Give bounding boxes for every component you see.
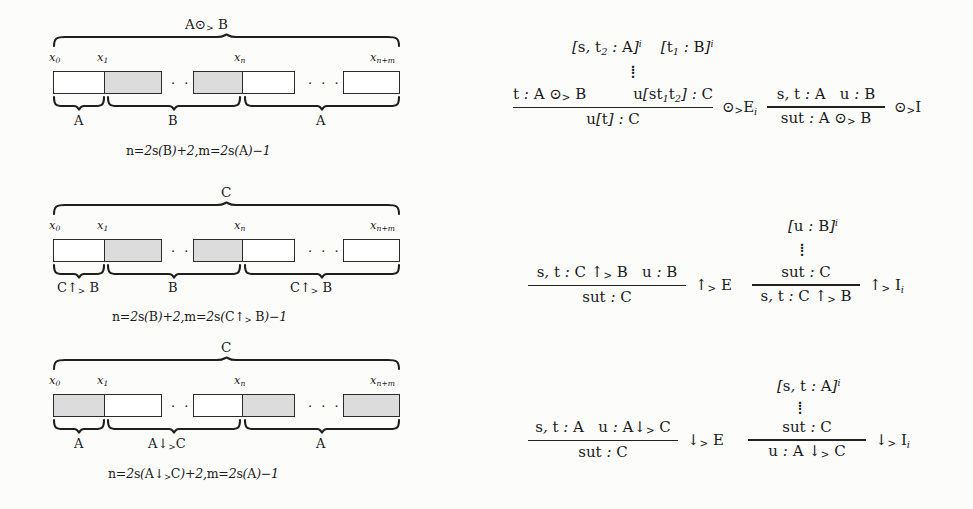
ellipsis-right: · · · <box>308 244 341 259</box>
rule-downarrow-intro: sut : C u : A ↓> C ↓> Ii <box>748 419 910 461</box>
uparrow-intro-name: ↑> Ii <box>869 276 904 295</box>
diagram-uparrow-top-label: C <box>221 184 231 200</box>
figure-page: A⊙> B x0 x1 xn xn+m · · · · · · <box>0 0 973 509</box>
brace-label-3: C↑> B <box>290 280 332 296</box>
downarrow-elim-numerator: s, t : A u : A↓> C <box>531 419 675 437</box>
uparrow-elim-denominator: sut : C <box>578 289 635 307</box>
odot-intro-name: ⊙>I <box>894 98 921 116</box>
diagram-odot-caption: n=2s(B)+2,m=2s(A)−1 <box>126 143 270 158</box>
rule-odot-intro: s, t : A u : B sut : A ⊙> B ⊙>I <box>767 86 921 128</box>
cell-5 <box>343 239 400 262</box>
brace-label-1: C↑> B <box>57 280 99 296</box>
odot-elim-numerator: t : A ⊙> B u[st1t2] : C <box>509 86 717 104</box>
uparrow-intro-denominator: s, t : C ↑> B <box>756 288 855 306</box>
bottom-brace-1 <box>53 97 105 110</box>
xlabel-xnm: xn+m <box>370 50 395 65</box>
bottom-brace-1 <box>53 420 105 433</box>
diagram-odot: A⊙> B x0 x1 xn xn+m · · · · · · <box>0 0 440 170</box>
uparrow-elim-numerator: s, t : C ↑> B u : B <box>533 264 682 282</box>
xlabel-x1: x1 <box>97 218 108 233</box>
xlabel-xn: xn <box>234 50 245 65</box>
bottom-brace-2 <box>107 97 241 110</box>
cell-4 <box>243 71 295 94</box>
rule-uparrow-elim: s, t : C ↑> B u : B sut : C ↑> E <box>528 264 732 306</box>
xlabel-xnm: xn+m <box>370 373 395 388</box>
rule-odot-elim: t : A ⊙> B u[st1t2] : C u[t] : C ⊙>Ei <box>513 86 757 129</box>
cell-strip: · · · · · · <box>53 239 400 262</box>
odot-elim-discharge: [s, t2 : A]i [t1 : B]i <box>572 38 713 57</box>
xlabel-x1: x1 <box>97 50 108 65</box>
uparrow-intro-bar <box>752 284 860 285</box>
xlabel-x0: x0 <box>49 373 60 388</box>
xlabel-x1: x1 <box>97 373 108 388</box>
cell-2 <box>105 71 162 94</box>
odot-intro-denominator: sut : A ⊙> B <box>777 110 876 128</box>
diagram-downarrow: C x0 x1 xn xn+m · · · · · · <box>0 320 440 490</box>
uparrow-intro-vdots: .... <box>797 240 807 253</box>
cell-2 <box>105 394 162 417</box>
bottom-brace-1 <box>53 265 105 278</box>
downarrow-intro-denominator: u : A ↓> C <box>764 443 849 461</box>
brace-label-2: B <box>168 280 178 295</box>
ellipsis-right: · · · <box>308 399 341 414</box>
top-brace <box>53 202 400 215</box>
bottom-brace-2 <box>107 265 241 278</box>
brace-label-1: A <box>74 436 83 451</box>
cell-5 <box>343 394 400 417</box>
cell-1 <box>53 239 105 262</box>
downarrow-elim-name: ↓> E <box>687 431 724 449</box>
bottom-brace-2 <box>107 420 241 433</box>
odot-intro-bar <box>767 106 885 107</box>
cell-3 <box>193 239 243 262</box>
top-brace <box>53 34 400 47</box>
odot-elim-denominator: u[t] : C <box>582 111 644 129</box>
odot-elim-bar <box>513 107 713 108</box>
xlabel-x0: x0 <box>49 218 60 233</box>
ellipsis-right: · · · <box>308 76 341 91</box>
brace-label-2: B <box>168 113 178 128</box>
cell-2 <box>105 239 162 262</box>
cell-4 <box>243 239 295 262</box>
odot-elim-vdots: .... <box>628 62 638 75</box>
diagram-downarrow-top-label: C <box>221 339 231 355</box>
diagram-uparrow: C x0 x1 xn xn+m · · · · · · <box>0 168 440 328</box>
top-brace <box>53 357 400 370</box>
xlabel-xn: xn <box>234 373 245 388</box>
cell-5 <box>343 71 400 94</box>
brace-label-1: A <box>74 113 83 128</box>
uparrow-intro-discharge: [u : B]i <box>788 217 838 235</box>
xlabel-xnm: xn+m <box>370 218 395 233</box>
cell-1 <box>53 71 105 94</box>
cell-4 <box>243 394 295 417</box>
brace-label-3: A <box>316 113 325 128</box>
bottom-brace-3 <box>244 420 400 433</box>
cell-3 <box>193 71 243 94</box>
diagram-odot-top-label: A⊙> B <box>185 16 228 33</box>
cell-strip: · · · · · · <box>53 394 400 417</box>
cell-1 <box>53 394 105 417</box>
cell-3 <box>193 394 243 417</box>
downarrow-intro-name: ↓> Ii <box>875 431 910 450</box>
brace-label-3: A <box>316 436 325 451</box>
downarrow-intro-bar <box>748 439 866 440</box>
uparrow-elim-bar <box>528 285 686 286</box>
odot-elim-name: ⊙>Ei <box>722 98 757 117</box>
downarrow-elim-denominator: sut : C <box>574 444 631 462</box>
uparrow-intro-numerator: sut : C <box>777 264 834 282</box>
downarrow-intro-numerator: sut : C <box>778 419 835 437</box>
xlabel-x0: x0 <box>49 50 60 65</box>
downarrow-intro-discharge: [s, t : A]i <box>777 377 840 395</box>
rule-uparrow-intro: sut : C s, t : C ↑> B ↑> Ii <box>752 264 904 306</box>
odot-intro-numerator: s, t : A u : B <box>773 86 879 104</box>
downarrow-elim-bar <box>528 440 678 441</box>
xlabel-xn: xn <box>234 218 245 233</box>
bottom-brace-3 <box>244 265 400 278</box>
bottom-brace-3 <box>244 97 400 110</box>
cell-strip: · · · · · · <box>53 71 400 94</box>
uparrow-elim-name: ↑> E <box>695 276 732 294</box>
diagram-downarrow-caption: n=2s(A↓>C)+2,m=2s(A)−1 <box>108 466 279 482</box>
rule-downarrow-elim: s, t : A u : A↓> C sut : C ↓> E <box>528 419 724 461</box>
downarrow-intro-vdots: .... <box>795 398 805 411</box>
brace-label-2: A↓>C <box>148 436 186 452</box>
